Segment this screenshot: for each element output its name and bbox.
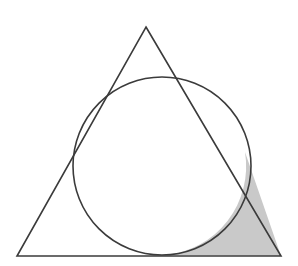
geometry-figure-svg [0, 0, 298, 266]
shaded-corner-region [165, 152, 281, 256]
figure-container [0, 0, 298, 266]
